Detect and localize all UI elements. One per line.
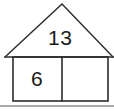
body-left-number-label: 6 <box>31 68 43 89</box>
figure-canvas: 13 6 <box>0 0 114 112</box>
body-rectangle <box>13 57 108 101</box>
roof-number-label: 13 <box>48 27 72 48</box>
house-diagram <box>0 0 114 112</box>
